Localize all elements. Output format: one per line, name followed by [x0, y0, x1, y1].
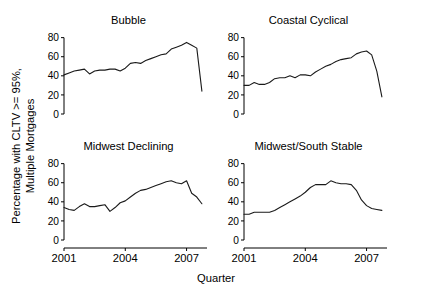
y-tick-label: 40	[48, 196, 60, 207]
y-tick-label: 20	[228, 216, 240, 227]
x-tick-label: 2007	[174, 252, 199, 264]
y-tick-label: 0	[53, 235, 59, 246]
figure-canvas: Percentage with CLTV >= 95%, Multiple Mo…	[0, 0, 435, 291]
plot-midwest-declining: 020406080200120042007	[46, 140, 211, 266]
y-tick-label: 40	[228, 70, 240, 81]
plot-midwest-south-stable: 020406080200120042007	[226, 140, 391, 266]
y-tick-label: 40	[228, 196, 240, 207]
data-line	[64, 181, 202, 212]
y-tick-label: 60	[228, 177, 240, 188]
y-tick-label: 80	[48, 158, 60, 169]
panel-midwest-declining: Midwest Declining 020406080200120042007	[46, 140, 211, 266]
x-axis-label: Quarter	[166, 272, 266, 284]
x-tick-label: 2007	[354, 252, 379, 264]
plot-bubble: 020406080	[46, 14, 211, 140]
x-tick-label: 2001	[232, 252, 257, 264]
y-tick-label: 20	[228, 90, 240, 101]
data-line	[64, 42, 202, 91]
y-axis-label-line2: Multiple Mortgages	[23, 68, 37, 224]
panel-bubble: Bubble 020406080	[46, 14, 211, 140]
y-tick-label: 0	[233, 235, 239, 246]
x-tick-label: 2001	[52, 252, 77, 264]
panel-coastal-cyclical: Coastal Cyclical 020406080	[226, 14, 391, 140]
y-tick-label: 80	[48, 32, 60, 43]
data-line	[244, 181, 382, 214]
y-tick-label: 40	[48, 70, 60, 81]
plot-coastal-cyclical: 020406080	[226, 14, 391, 140]
x-tick-label: 2004	[113, 252, 138, 264]
y-tick-label: 0	[53, 109, 59, 120]
y-tick-label: 20	[48, 90, 60, 101]
data-line	[244, 51, 382, 97]
x-tick-label: 2004	[293, 252, 318, 264]
y-axis-label-line1: Percentage with CLTV >= 95%,	[9, 68, 23, 224]
y-tick-label: 60	[48, 177, 60, 188]
y-tick-label: 20	[48, 216, 60, 227]
y-tick-label: 60	[228, 51, 240, 62]
y-axis-label: Percentage with CLTV >= 95%, Multiple Mo…	[0, 0, 46, 291]
panel-midwest-south-stable: Midwest/South Stable 0204060802001200420…	[226, 140, 391, 266]
y-tick-label: 80	[228, 32, 240, 43]
y-tick-label: 0	[233, 109, 239, 120]
y-tick-label: 80	[228, 158, 240, 169]
y-tick-label: 60	[48, 51, 60, 62]
